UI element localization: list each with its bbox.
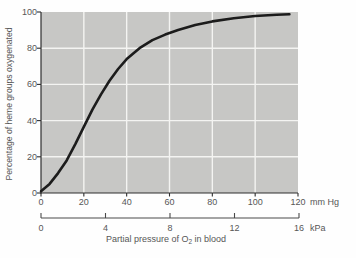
y-axis-title: Percentage of heme groups oxygenated [4, 28, 14, 181]
oxygen-dissociation-figure: 020406080100020406080100120mm Hg0481216k… [0, 0, 356, 258]
x-axis-title: Partial pressure of O2 in blood [106, 234, 226, 245]
x-axis-title-pre: Partial pressure of O [106, 234, 189, 244]
chart-canvas [0, 0, 356, 258]
x-axis-title-post: in blood [192, 234, 226, 244]
